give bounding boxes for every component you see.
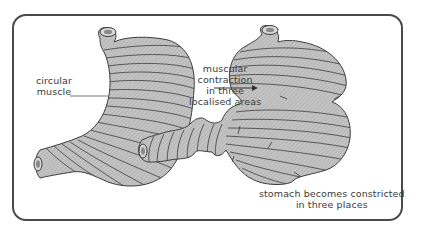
label-circular-muscle: circular muscle [36, 75, 72, 97]
label-muscular-contraction: muscular contraction in three localised … [189, 63, 261, 107]
label-line: localised areas [189, 96, 261, 107]
label-line: contraction [189, 74, 261, 85]
relaxed-stomach [34, 28, 198, 191]
label-line: in three places [259, 199, 405, 210]
label-line: muscle [36, 86, 72, 97]
label-line: in three [189, 85, 261, 96]
label-line: muscular [189, 63, 261, 74]
label-line: stomach becomes constricted [259, 188, 405, 199]
label-line: circular [36, 75, 72, 86]
label-stomach-constricted: stomach becomes constricted in three pla… [259, 188, 405, 210]
